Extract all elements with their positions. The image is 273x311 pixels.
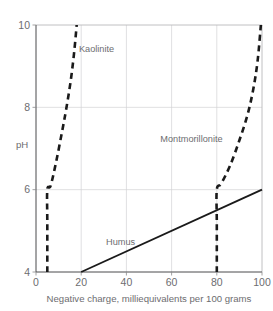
y-tick-label: 10 <box>18 19 30 31</box>
x-tick-label: 100 <box>253 276 271 288</box>
x-tick-label: 40 <box>121 276 133 288</box>
series-label-montmorillonite: Montmorillonite <box>160 134 222 144</box>
chart-figure: 020406080100 46810 KaoliniteMontmorillon… <box>0 0 273 311</box>
chart-background <box>0 0 273 311</box>
series-label-kaolinite: Kaolinite <box>79 44 114 54</box>
x-tick-label: 20 <box>75 276 87 288</box>
y-tick-label: 6 <box>24 183 30 195</box>
series-label-humus: Humus <box>106 237 136 247</box>
y-axis-title: pH <box>16 139 28 150</box>
y-tick-label: 8 <box>24 101 30 113</box>
x-tick-label: 80 <box>211 276 223 288</box>
ph-negative-charge-chart: 020406080100 46810 KaoliniteMontmorillon… <box>0 0 273 311</box>
x-axis-title: Negative charge, milliequivalents per 10… <box>47 293 252 304</box>
x-tick-label: 0 <box>33 276 39 288</box>
y-tick-label: 4 <box>24 266 30 278</box>
x-tick-label: 60 <box>166 276 178 288</box>
